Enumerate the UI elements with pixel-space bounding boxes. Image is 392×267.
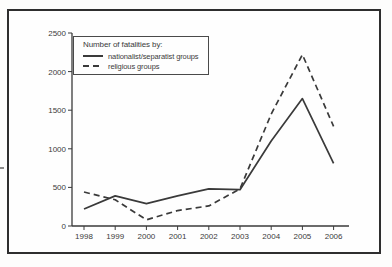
x-axis-tick-label: 2003	[231, 232, 249, 241]
y-axis-tick-label: 0	[62, 222, 67, 231]
x-axis-tick-label: 2004	[262, 232, 280, 241]
x-axis-tick-label: 2005	[294, 232, 312, 241]
y-axis-tick-label: 2000	[48, 68, 66, 77]
y-axis-tick-label: 500	[53, 183, 67, 192]
x-axis-tick-label: 1998	[75, 232, 93, 241]
legend-title: Number of fatalities by:	[83, 40, 208, 49]
series-line-nationalist-separatist	[84, 99, 334, 209]
series-line-religious	[84, 55, 334, 220]
x-axis-tick-label: 2000	[138, 232, 156, 241]
y-axis-tick-label: 1500	[48, 106, 66, 115]
legend-label-religious: religious groups	[108, 62, 159, 71]
x-axis-tick-label: 1999	[106, 232, 124, 241]
dashed-line-sample-icon	[83, 65, 103, 67]
scanned-chart-page: 0500100015002000250019981999200020012002…	[0, 0, 392, 267]
legend: Number of fatalities by: nationalist/sep…	[73, 36, 209, 75]
legend-item-nationalist-separatist: nationalist/separatist groups	[83, 51, 208, 61]
y-axis-tick-label: 2500	[48, 29, 66, 38]
x-axis-tick-label: 2006	[325, 232, 343, 241]
x-axis-tick-label: 2001	[169, 232, 187, 241]
y-axis-tick-label: 1000	[48, 145, 66, 154]
solid-line-sample-icon	[83, 55, 103, 57]
legend-label-nationalist-separatist: nationalist/separatist groups	[108, 52, 199, 61]
legend-item-religious: religious groups	[83, 61, 208, 71]
x-axis-tick-label: 2002	[200, 232, 218, 241]
